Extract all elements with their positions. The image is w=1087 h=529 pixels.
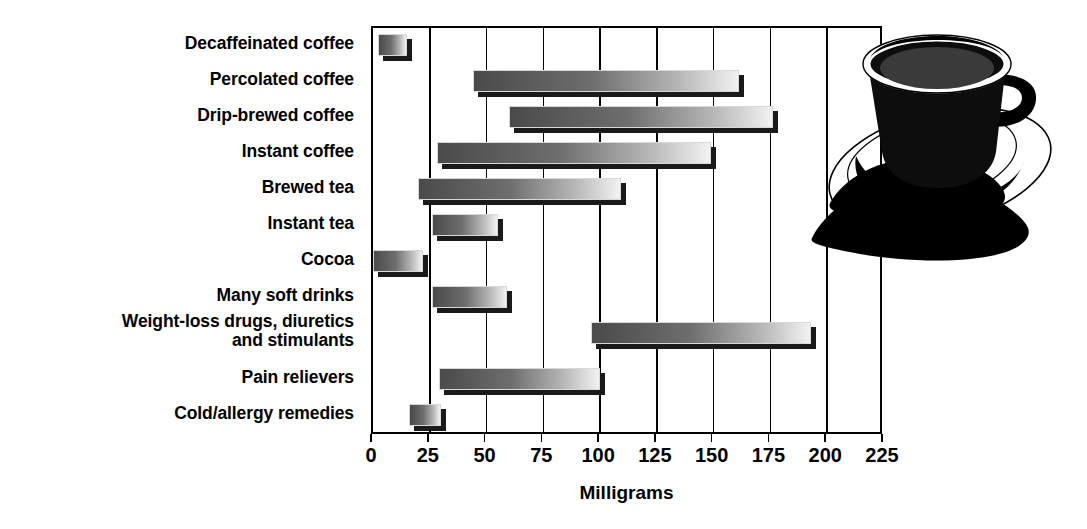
bar-fill — [473, 70, 739, 92]
category-axis-labels: Decaffeinated coffeePercolated coffeeDri… — [0, 26, 362, 426]
category-label: Drip-brewed coffee — [2, 106, 354, 125]
x-tick-mark — [824, 434, 826, 442]
plot-area — [371, 26, 882, 434]
x-tick-label: 75 — [530, 444, 552, 467]
bar-fill — [437, 142, 712, 164]
x-tick-label: 175 — [752, 444, 785, 467]
x-tick-mark — [881, 434, 883, 442]
bar-fill — [418, 178, 620, 200]
category-label: Decaffeinated coffee — [2, 34, 354, 53]
x-tick-label: 200 — [809, 444, 842, 467]
x-tick-mark — [768, 434, 770, 442]
x-tick-mark — [597, 434, 599, 442]
bar — [473, 70, 739, 92]
x-tick-label: 25 — [417, 444, 439, 467]
x-tick-mark — [370, 434, 372, 442]
category-label: Percolated coffee — [2, 70, 354, 89]
bar-fill — [373, 250, 423, 272]
x-tick-label: 100 — [581, 444, 614, 467]
bar — [437, 142, 712, 164]
bar-fill — [409, 404, 441, 426]
gridline — [770, 28, 772, 432]
category-label: Weight-loss drugs, diuretics and stimula… — [2, 312, 354, 350]
bar — [432, 286, 507, 308]
category-label: Brewed tea — [2, 178, 354, 197]
category-label: Cold/allergy remedies — [2, 404, 354, 423]
x-tick-mark — [541, 434, 543, 442]
x-tick-label: 125 — [638, 444, 671, 467]
bar — [373, 250, 423, 272]
bar — [509, 106, 772, 128]
x-tick-mark — [484, 434, 486, 442]
x-axis-ticks: 0255075100125150175200225 — [371, 434, 882, 444]
category-label: Pain relievers — [2, 368, 354, 387]
bar — [409, 404, 441, 426]
bar-fill — [432, 214, 498, 236]
bar — [439, 368, 600, 390]
x-tick-label: 0 — [365, 444, 376, 467]
bar-fill — [432, 286, 507, 308]
gridline — [826, 28, 828, 432]
x-tick-mark — [427, 434, 429, 442]
caffeine-content-bar-chart: Decaffeinated coffeePercolated coffeeDri… — [0, 0, 1087, 529]
category-label: Instant tea — [2, 214, 354, 233]
bar — [591, 322, 811, 344]
category-label: Instant coffee — [2, 142, 354, 161]
bar — [378, 34, 408, 56]
bar-fill — [439, 368, 600, 390]
bar — [418, 178, 620, 200]
gridline — [429, 28, 431, 432]
x-axis-title: Milligrams — [371, 482, 882, 504]
category-label: Many soft drinks — [2, 286, 354, 305]
bar-fill — [378, 34, 408, 56]
category-label: Cocoa — [2, 250, 354, 269]
x-tick-mark — [711, 434, 713, 442]
bar-fill — [591, 322, 811, 344]
x-tick-label: 150 — [695, 444, 728, 467]
bar — [432, 214, 498, 236]
x-tick-mark — [654, 434, 656, 442]
bar-fill — [509, 106, 772, 128]
x-tick-label: 50 — [473, 444, 495, 467]
x-tick-label: 225 — [865, 444, 898, 467]
